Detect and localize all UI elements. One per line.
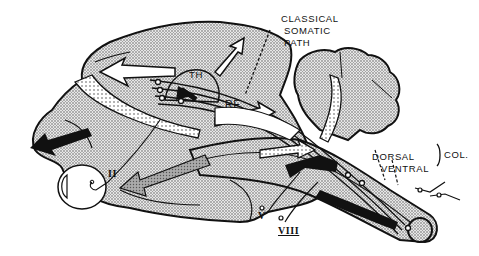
classical-label-line3: PATH [284,38,310,48]
columns-label: COL. [444,150,469,160]
brain-diagram: CLASSICAL SOMATIC PATH TH RF DORSAL VENT… [0,0,479,256]
reticular-formation-label: RF [225,99,240,109]
thalamus-label: TH [189,70,203,80]
ventral-label: VENTRAL [381,164,429,174]
cerebellum [294,48,399,140]
vestibulocochlear-nerve-label: VIII [278,226,299,236]
trigeminal-nerve-label: V [258,211,266,221]
classical-label-line2: SOMATIC [284,26,331,36]
optic-nerve-label: II [108,169,117,179]
dorsal-label: DORSAL [372,152,415,162]
diagram-canvas [0,0,479,256]
classical-label-line1: CLASSICAL [281,14,339,24]
